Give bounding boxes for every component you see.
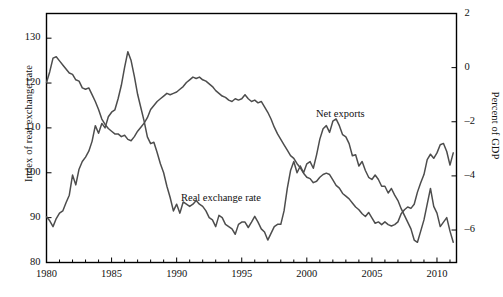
y-tick-label-right-0: 0 — [465, 61, 493, 72]
x-tick-label-2005: 2005 — [352, 268, 392, 279]
x-tick-label-1985: 1985 — [92, 268, 132, 279]
x-tick-label-1990: 1990 — [157, 268, 197, 279]
y-tick-label-left-120: 120 — [13, 76, 41, 87]
x-tick-label-2010: 2010 — [417, 268, 457, 279]
y-tick-label-left-80: 80 — [13, 256, 41, 267]
x-tick-label-2000: 2000 — [287, 268, 327, 279]
y-tick-label-right-2: 2 — [465, 7, 493, 18]
y-tick-label-left-90: 90 — [13, 211, 41, 222]
y-tick-label-right--2: –2 — [465, 115, 493, 126]
x-tick-label-1995: 1995 — [222, 268, 262, 279]
series-line-real-exchange-rate — [47, 52, 454, 243]
chart-figure: Index of real exchange rate Percent of G… — [0, 0, 503, 297]
y-tick-label-left-130: 130 — [13, 31, 41, 42]
y-tick-label-right--6: –6 — [465, 223, 493, 234]
series-line-net-exports — [47, 57, 454, 226]
y-tick-label-left-110: 110 — [13, 121, 41, 132]
data-lines — [47, 52, 454, 243]
y-tick-label-right--4: –4 — [465, 169, 493, 180]
y-tick-label-left-100: 100 — [13, 166, 41, 177]
x-tick-label-1980: 1980 — [27, 268, 67, 279]
plot-canvas — [0, 0, 503, 297]
